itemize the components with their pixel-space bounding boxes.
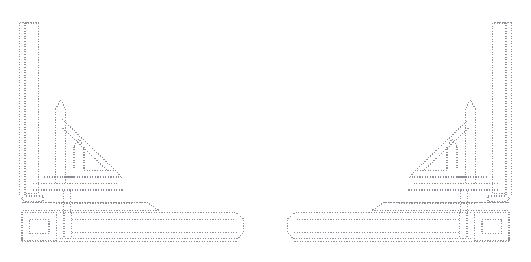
ornament-canvas: [0, 0, 531, 262]
canvas-background: [0, 0, 531, 262]
artboard: Mirrored pair of dotted outline Kufic ca…: [0, 0, 531, 262]
